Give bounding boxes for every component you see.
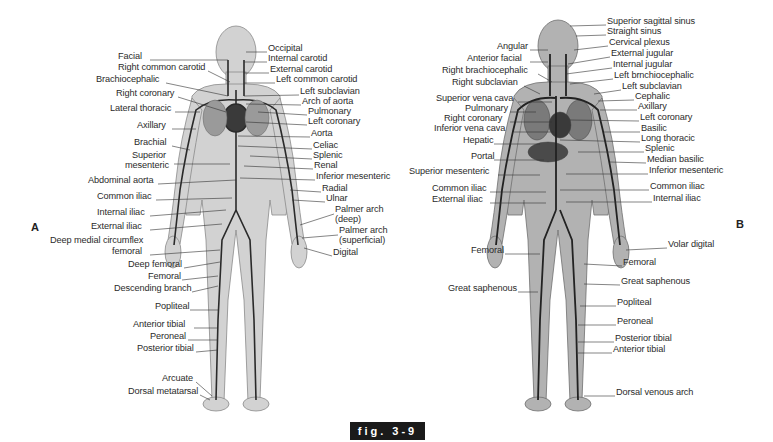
vessel-label: Cephalic [635,91,670,101]
vessel-label: Hepatic [463,135,493,145]
panel-a-letter: A [31,221,39,233]
vessel-label: Femoral [623,257,656,267]
anatomy-figure: FacialRight common carotidBrachiocephali… [0,0,773,442]
vessel-label: Inferior vena cava [434,123,505,133]
vessel-label: femoral [112,246,142,256]
vessel-label: Right coronary [444,113,502,123]
vessel-label: Femoral [471,245,504,255]
vessel-label: Axillary [137,120,166,130]
vessel-label: Inferior mesenteric [316,171,390,181]
vessel-label: Great saphenous [448,283,517,293]
vessel-label: Posterior tibial [137,343,194,353]
vessel-label: Dorsal venous arch [616,387,693,397]
vessel-label: Lateral thoracic [110,103,171,113]
vessel-label: Cervical plexus [609,37,670,47]
vessel-label: Angular [497,41,528,51]
vessel-label: Left brnchiocephalic [614,70,694,80]
vessel-label: Palmer arch [339,225,387,235]
vessel-label: Radial [322,183,347,193]
vessel-label: Straight sinus [607,26,661,36]
vessel-label: Ulnar [326,193,347,203]
vessel-label: Superior mesenteric [409,166,489,176]
vessel-label: Arch of aorta [302,96,353,106]
vessel-label: Deep medial circumflex [50,235,143,245]
vessel-label: Palmer arch [335,204,383,214]
vessel-label: Posterior tibial [615,333,672,343]
vessel-label: (superficial) [339,235,385,245]
vessel-label: External iliac [432,194,483,204]
vessel-label: Anterior facial [467,53,522,63]
vessel-label: Superior sagittal sinus [607,16,695,26]
vessel-label: (deep) [335,214,361,224]
figure-caption: fig. 3-9 [350,422,425,440]
vessel-label: Median basilic [647,154,704,164]
vessel-label: Internal iliac [97,207,145,217]
vessel-label: Portal [471,151,494,161]
vessel-label: Volar digital [668,239,714,249]
vessel-label: Anterior tibial [133,319,185,329]
vessel-label: Common iliac [650,181,704,191]
vessel-label: Left subclavian [622,81,682,91]
vessel-label: External carotid [270,64,332,74]
vessel-label: Femoral [148,271,181,281]
vessel-label: Anterior tibial [613,344,665,354]
vessel-label: Splenic [313,150,342,160]
vessel-label: Left common carotid [276,74,357,84]
vessel-label: Axillary [638,101,667,111]
vessel-label: Digital [333,247,358,257]
vessel-label: Right coronary [116,88,174,98]
vessel-label: Popliteal [617,297,651,307]
vessel-label: Pulmonary [308,106,351,116]
vessel-label: Aorta [311,128,332,138]
vessel-label: Brachial [134,137,166,147]
vessel-label: Pulmonary [465,103,508,113]
vessel-label: Popliteal [155,301,189,311]
vessel-label: Occipital [268,43,302,53]
vessel-label: Internal carotid [268,53,327,63]
vessel-label: Splenic [645,143,674,153]
vessel-label: Internal jugular [613,59,672,69]
vessel-label: mesenteric [125,160,169,170]
vessel-label: Inferior mesenteric [649,165,723,175]
vessel-label: Brachiocephalic [96,74,159,84]
vessel-label: External jugular [611,48,673,58]
vessel-label: Right common carotid [118,62,205,72]
vessel-label: Superior [132,150,166,160]
vessel-label: Celiac [313,140,338,150]
vessel-label: Common iliac [97,191,151,201]
vessel-label: Arcuate [162,373,193,383]
vessel-label: External iliac [91,221,142,231]
vessel-label: Great saphenous [621,276,690,286]
vessel-label: Internal iliac [653,193,701,203]
vessel-label: Dorsal metatarsal [128,386,198,396]
vessel-label: Peroneal [617,316,653,326]
vessel-label: Superior vena cava [436,93,513,103]
vessel-label: Facial [118,51,142,61]
vessel-label: Renal [314,160,338,170]
vessel-label: Deep femoral [128,259,182,269]
vessel-label: Left coronary [308,116,360,126]
vessel-label: Common iliac [432,183,486,193]
vessel-label: Abdominal aorta [88,175,153,185]
vessel-label: Basilic [641,123,667,133]
vessel-label: Long thoracic [641,133,695,143]
vessel-label: Peroneal [150,331,186,341]
vessel-label: Left coronary [640,112,692,122]
vessel-label: Left subclavian [300,86,360,96]
panel-b-letter: B [736,218,744,230]
vessel-label: Right subclavian [452,77,518,87]
vessel-label: Descending branch [114,283,191,293]
vessel-label: Right brachiocephalic [442,65,528,75]
